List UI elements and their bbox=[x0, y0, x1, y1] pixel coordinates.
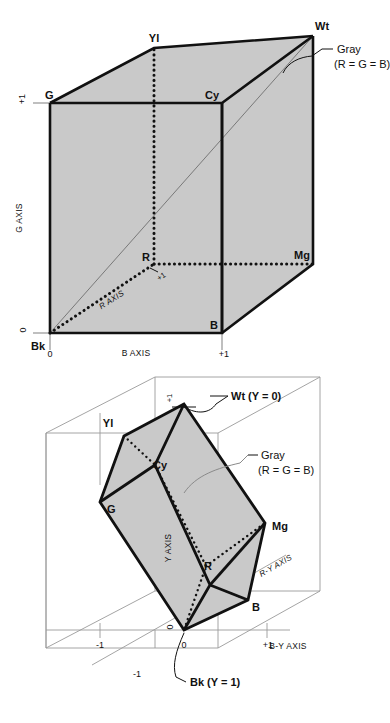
label-b: B bbox=[210, 319, 218, 331]
label-cy: Cy bbox=[205, 89, 220, 101]
gray-callout-line2: (R = G = B) bbox=[334, 58, 390, 70]
origin-label: 0 bbox=[181, 640, 186, 650]
ry-tick-minus-one: -1 bbox=[133, 669, 141, 679]
gray-callout-line1-bottom: Gray bbox=[261, 449, 285, 461]
origin-label-left: 0 bbox=[165, 624, 175, 629]
bk-callout-stem bbox=[176, 677, 186, 682]
label-bk: Bk bbox=[31, 340, 46, 352]
label-wt-bottom: Wt (Y = 0) bbox=[231, 390, 282, 402]
label-g-bottom: G bbox=[107, 503, 116, 515]
label-r: R bbox=[142, 251, 150, 263]
gray-callout-line1: Gray bbox=[337, 43, 361, 55]
rgb-cube-figure: Yl Wt G Cy Mg B R Bk Gray (R = G = B) G … bbox=[0, 0, 390, 362]
label-mg-bottom: Mg bbox=[272, 520, 288, 532]
label-b-bottom: B bbox=[252, 601, 260, 613]
y-axis-label-bottom: Y AXIS bbox=[163, 534, 173, 563]
by-axis-label-bottom: B-Y AXIS bbox=[269, 641, 307, 651]
label-mg: Mg bbox=[294, 249, 310, 261]
gray-callout-line2-bottom: (R = G = B) bbox=[258, 464, 314, 476]
label-yl-bottom: Yl bbox=[103, 417, 113, 429]
ry-axis-label-bottom: R-Y AXIS bbox=[258, 553, 294, 579]
label-r-bottom: R bbox=[204, 560, 212, 572]
by-tick-plus-one: +1 bbox=[263, 640, 273, 650]
figure-page: Yl Wt G Cy Mg B R Bk Gray (R = G = B) G … bbox=[0, 0, 390, 723]
wt-callout-leader bbox=[184, 396, 228, 412]
g-axis-tick-zero: 0 bbox=[18, 327, 28, 332]
g-axis-label: G AXIS bbox=[14, 203, 24, 233]
label-cy-bottom: Cy bbox=[153, 459, 168, 471]
rgb-cube-svg: Yl Wt G Cy Mg B R Bk Gray (R = G = B) G … bbox=[0, 0, 390, 362]
g-axis-tick-plus-one: +1 bbox=[17, 94, 27, 104]
label-g: G bbox=[45, 89, 54, 101]
ycbcr-solid-svg: Wt (Y = 0) Yl Cy G Mg B R Bk (Y = 1) Gra… bbox=[0, 355, 390, 723]
ycbcr-solid-figure: Wt (Y = 0) Yl Cy G Mg B R Bk (Y = 1) Gra… bbox=[0, 355, 390, 723]
gray-callout-stem-bottom bbox=[240, 455, 248, 463]
label-bk-bottom: Bk (Y = 1) bbox=[190, 676, 241, 688]
cube-front-face bbox=[50, 103, 222, 333]
y-tick-plus-one: +1 bbox=[165, 394, 174, 403]
by-tick-minus-one: -1 bbox=[96, 640, 104, 650]
label-yl: Yl bbox=[149, 32, 159, 44]
label-wt: Wt bbox=[315, 20, 329, 32]
